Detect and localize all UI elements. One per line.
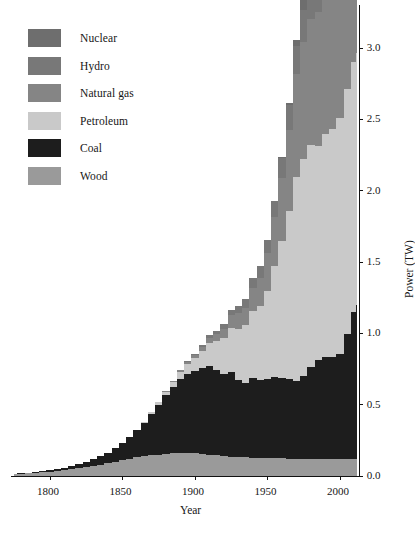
legend-item-wood[interactable]: Wood [28,167,108,185]
legend-label: Coal [80,142,102,154]
y-axis-title: Power (TW) [403,240,415,298]
x-tick-label: 1850 [110,485,132,497]
x-tick-label: 2000 [327,485,349,497]
legend-label: Nuclear [80,32,117,44]
x-tick-label: 1800 [37,485,59,497]
x-axis-title: Year [180,504,201,516]
legend-item-natural-gas[interactable]: Natural gas [28,84,134,102]
legend-item-petroleum[interactable]: Petroleum [28,112,128,130]
y-tick-label: 2.5 [367,112,381,124]
y-tick-label: 1.0 [367,326,381,338]
y-tick-label: 0.0 [367,469,381,481]
y-tick-label: 1.5 [367,255,381,267]
legend-item-nuclear[interactable]: Nuclear [28,29,117,47]
legend-swatch-icon [28,167,61,185]
legend-swatch-icon [28,84,61,102]
legend-label: Wood [80,170,108,182]
legend-item-coal[interactable]: Coal [28,139,102,157]
legend-label: Hydro [80,60,110,72]
legend-item-hydro[interactable]: Hydro [28,57,110,75]
legend-label: Natural gas [80,87,134,99]
legend-swatch-icon [28,112,61,130]
y-tick-label: 0.5 [367,398,381,410]
x-tick-label: 1950 [255,485,277,497]
legend-swatch-icon [28,57,61,75]
legend-swatch-icon [28,29,61,47]
y-tick-label: 2.0 [367,184,381,196]
y-tick-label: 3.0 [367,41,381,53]
legend-swatch-icon [28,139,61,157]
x-tick-label: 1900 [182,485,204,497]
legend-label: Petroleum [80,115,128,127]
